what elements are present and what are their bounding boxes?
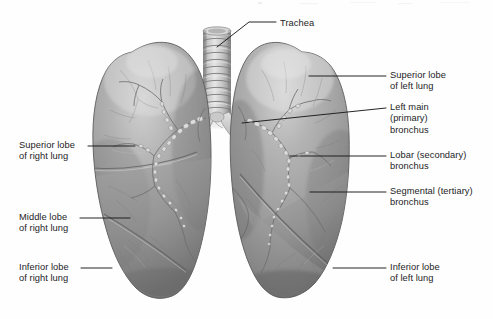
lung-anatomy-figure: TracheaSuperior lobeof left lungLeft mai… [0, 0, 493, 319]
label-line: of right lung [19, 273, 69, 284]
label-line: Lobar (secondary) [390, 150, 466, 161]
scan-artifacts [258, 2, 470, 4]
label-trachea: Trachea [280, 18, 314, 29]
label-line: bronchus [390, 197, 473, 208]
label-superior-lobe-right-lung: Superior lobeof right lung [19, 140, 75, 163]
label-left-main-primary-bronchus: Left main(primary)bronchus [390, 102, 429, 136]
label-line: bronchus [390, 161, 466, 172]
label-line: Trachea [280, 18, 314, 29]
label-line: Inferior lobe [390, 262, 440, 273]
label-middle-lobe-right-lung: Middle lobeof right lung [19, 212, 68, 235]
label-line: of left lung [390, 273, 440, 284]
label-inferior-lobe-right-lung: Inferior lobeof right lung [19, 262, 69, 285]
label-line: Inferior lobe [19, 262, 69, 273]
label-line: of left lung [390, 81, 446, 92]
label-line: Superior lobe [19, 140, 75, 151]
label-line: bronchus [390, 125, 429, 136]
label-line: Middle lobe [19, 212, 68, 223]
label-line: (primary) [390, 113, 429, 124]
label-line: Segmental (tertiary) [390, 186, 473, 197]
label-line: Superior lobe [390, 70, 446, 81]
label-line: of right lung [19, 223, 68, 234]
label-line: of right lung [19, 151, 75, 162]
label-superior-lobe-left-lung: Superior lobeof left lung [390, 70, 446, 93]
label-line: Left main [390, 102, 429, 113]
label-inferior-lobe-left-lung: Inferior lobeof left lung [390, 262, 440, 285]
label-segmental-tertiary-bronchus: Segmental (tertiary)bronchus [390, 186, 473, 209]
left-lung [216, 42, 374, 314]
label-lobar-secondary-bronchus: Lobar (secondary)bronchus [390, 150, 466, 173]
